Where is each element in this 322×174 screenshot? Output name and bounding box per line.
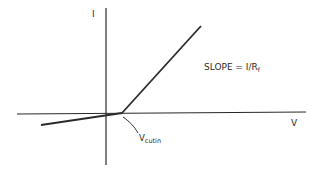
slope-annotation: SLOPE = I/Rf — [204, 62, 261, 73]
iv-characteristic-diagram: I V SLOPE = I/Rf Vcutin — [0, 0, 322, 174]
slope-text: SLOPE = I/R — [204, 62, 258, 72]
reverse-segment — [41, 113, 122, 125]
y-axis-label: I — [92, 9, 95, 19]
cutin-leader-line — [123, 117, 138, 133]
x-axis-label: V — [291, 118, 298, 128]
cutin-subscript: cutin — [145, 137, 161, 145]
slope-subscript: f — [258, 66, 261, 73]
horizontal-axis-voltage — [17, 112, 306, 114]
cutin-voltage-label: Vcutin — [139, 133, 161, 145]
forward-segment — [122, 26, 201, 113]
